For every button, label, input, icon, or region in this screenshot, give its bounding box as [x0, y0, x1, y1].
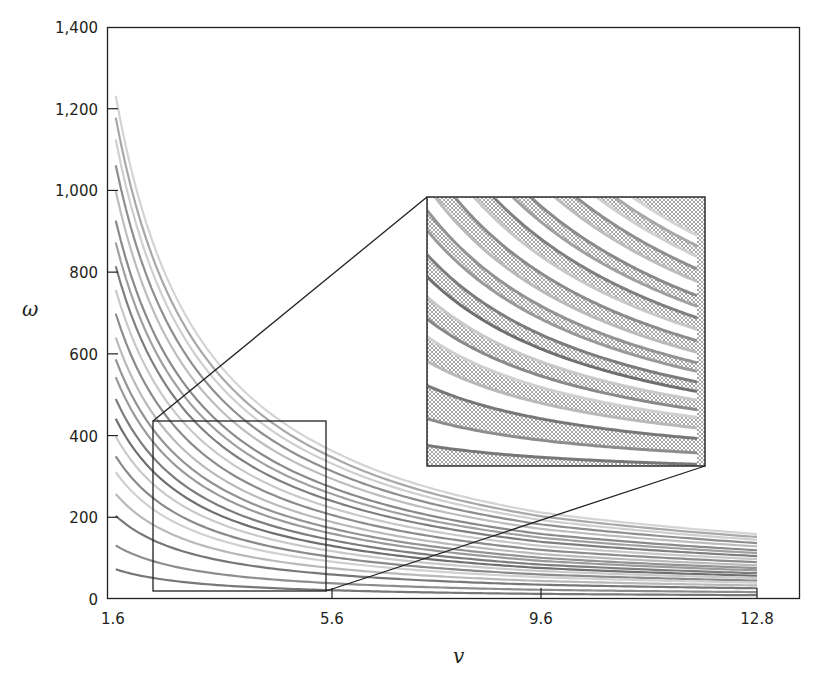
- x-tick-label: 12.8: [740, 610, 773, 628]
- y-tick-label: 400: [69, 428, 98, 446]
- inset-magnified-view: [424, 0, 705, 466]
- y-axis: 02004006008001,0001,2001,400: [55, 19, 118, 609]
- x-tick-label: 9.6: [529, 610, 553, 628]
- y-tick-label: 600: [69, 346, 98, 364]
- y-tick-label: 200: [69, 509, 98, 527]
- y-tick-label: 800: [69, 264, 98, 282]
- y-tick-label: 0: [88, 591, 98, 609]
- x-tick-label: 5.6: [320, 610, 344, 628]
- y-tick-label: 1,400: [55, 19, 98, 37]
- chart: 02004006008001,0001,2001,400 1.65.69.612…: [0, 0, 819, 683]
- connector-line-top: [153, 197, 427, 421]
- y-tick-label: 1,000: [55, 182, 98, 200]
- y-axis-title: ω: [22, 297, 38, 321]
- x-axis-title: v: [453, 644, 465, 668]
- y-tick-label: 1,200: [55, 101, 98, 119]
- x-tick-label: 1.6: [101, 610, 125, 628]
